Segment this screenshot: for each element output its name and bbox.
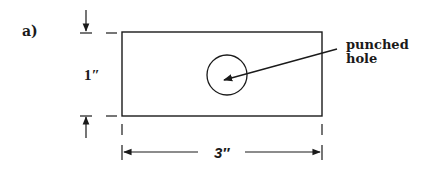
height-label: 1″	[84, 67, 100, 83]
punched-plate-diagram: a) punched hole 1″ 3″	[0, 0, 422, 172]
plate-rectangle	[122, 32, 322, 116]
leader-arrow	[224, 49, 337, 80]
height-dimension-bottom	[80, 116, 117, 138]
width-label: 3″	[214, 144, 230, 161]
callout-line-1: punched	[346, 37, 409, 52]
callout-line-2: hole	[346, 51, 377, 66]
panel-label: a)	[22, 23, 38, 39]
height-dimension-top	[80, 10, 117, 33]
